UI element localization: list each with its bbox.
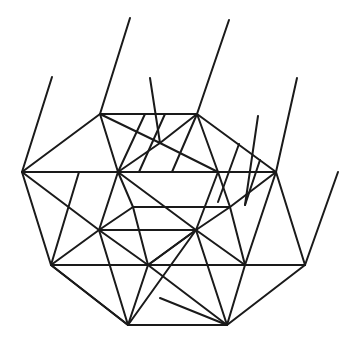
lattice-diagram: [0, 0, 355, 344]
line-segment: [276, 78, 297, 172]
line-segment: [100, 18, 130, 114]
line-segment: [227, 265, 245, 325]
line-segment: [100, 114, 118, 172]
line-segment: [51, 172, 79, 265]
line-segment: [196, 230, 227, 325]
line-segment: [100, 114, 160, 143]
line-segment: [51, 230, 99, 265]
line-segment: [22, 77, 52, 172]
line-segment: [99, 230, 128, 325]
line-segment: [218, 172, 230, 207]
line-segment: [245, 172, 276, 265]
line-segment: [276, 172, 305, 265]
line-segment: [148, 230, 196, 265]
line-segment: [150, 78, 160, 143]
line-segment: [128, 265, 148, 325]
line-segment: [51, 265, 128, 325]
line-segment: [148, 265, 227, 325]
line-segment: [197, 20, 229, 114]
line-segment: [160, 298, 227, 325]
line-segment: [22, 172, 51, 265]
line-segment: [305, 172, 338, 265]
line-segment: [227, 265, 305, 325]
line-segment: [245, 160, 260, 205]
line-segment: [230, 172, 276, 207]
lattice-svg: [0, 0, 355, 344]
line-segment: [197, 114, 276, 172]
line-segment: [22, 114, 100, 172]
line-segment: [128, 230, 196, 325]
line-segment: [196, 172, 218, 230]
line-segment: [22, 172, 99, 230]
line-segment: [99, 172, 118, 230]
line-segment: [99, 207, 133, 230]
